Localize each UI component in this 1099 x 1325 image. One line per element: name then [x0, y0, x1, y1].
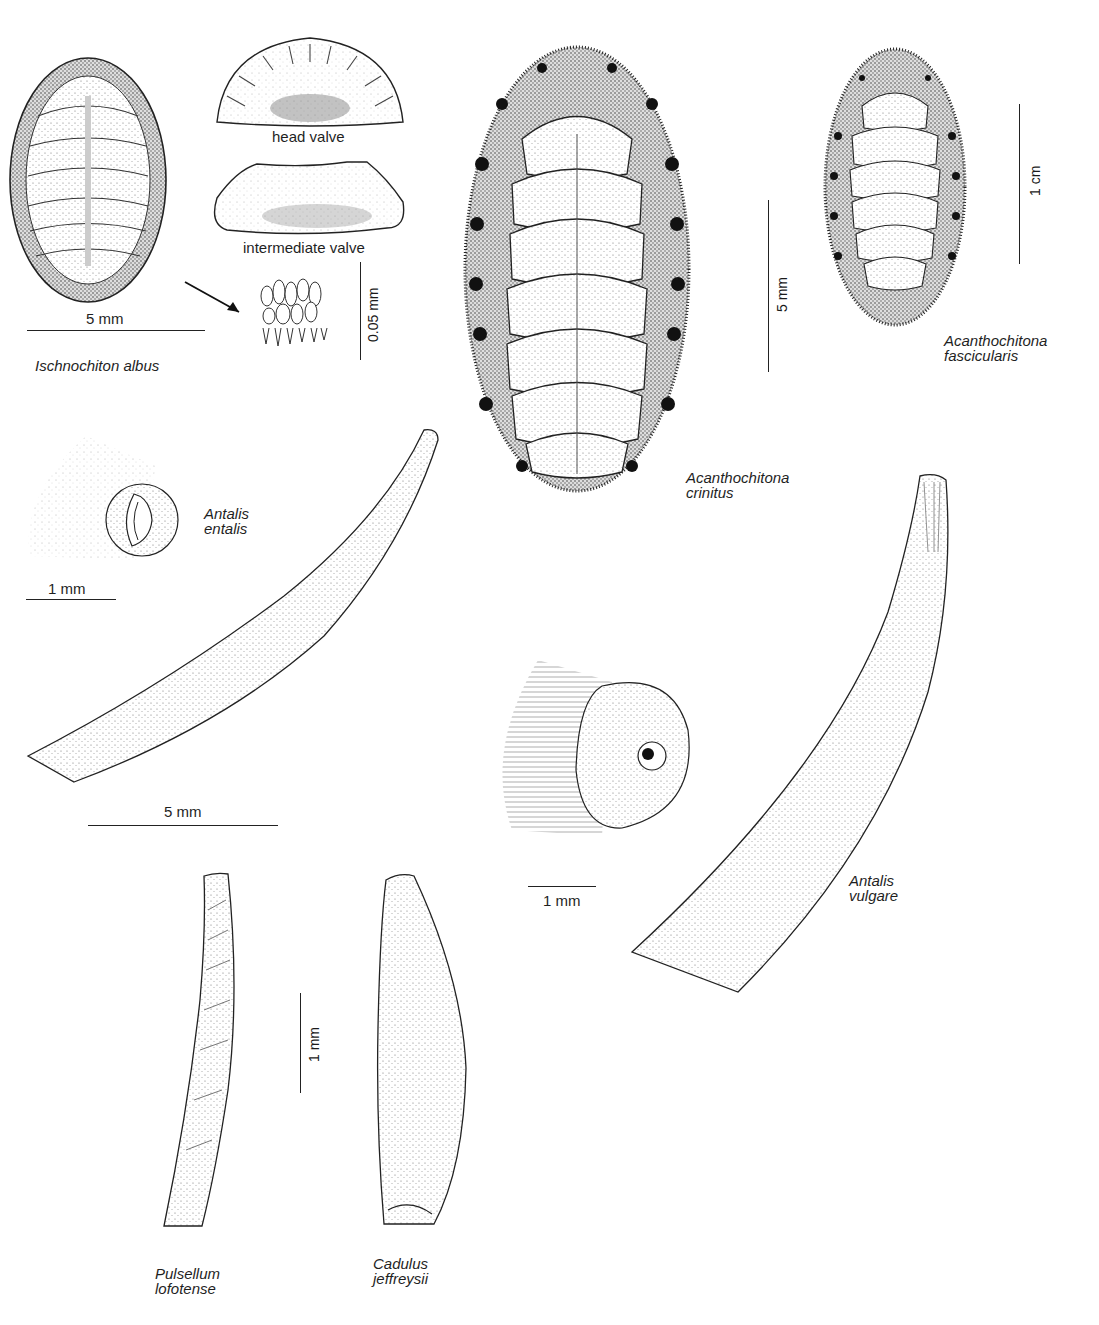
entalis-shell-scale-label: 5 mm: [164, 804, 202, 820]
vulgare-species-line2: vulgare: [849, 888, 898, 904]
acanthochitona-crinitus-illustration: [462, 44, 692, 494]
pulsellum-scale-bar: [300, 993, 301, 1093]
pulsellum-species-line2: lofotense: [155, 1281, 216, 1297]
crinitus-scale-label: 5 mm: [774, 277, 790, 312]
girdle-scale-label: 0.05 mm: [365, 288, 381, 342]
head-valve-label: head valve: [272, 129, 345, 145]
intermediate-valve-illustration: [207, 158, 409, 234]
pulsellum-scale-label: 1 mm: [306, 1027, 322, 1062]
ischnochiton-body-illustration: [8, 56, 168, 304]
girdle-scale-bar: [360, 262, 361, 360]
ischnochiton-scale-label: 5 mm: [86, 311, 124, 327]
fascicularis-species-line2: fascicularis: [944, 348, 1018, 364]
fascicularis-scale-label: 1 cm: [1027, 166, 1043, 196]
vulgare-detail-scale-bar: [528, 886, 596, 887]
intermediate-valve-label: intermediate valve: [243, 240, 365, 256]
pulsellum-shell-illustration: [150, 870, 246, 1230]
antalis-entalis-shell-illustration: [24, 426, 438, 786]
ischnochiton-scale-bar: [27, 330, 205, 331]
cadulus-species-line2: jeffreysii: [373, 1271, 428, 1287]
pointer-arrow-icon: [183, 280, 245, 316]
girdle-scales-illustration: [255, 276, 335, 354]
fascicularis-scale-bar: [1019, 104, 1020, 264]
vulgare-detail-scale-label: 1 mm: [543, 893, 581, 909]
antalis-vulgare-shell-illustration: [628, 472, 954, 992]
acanthochitona-fascicularis-illustration: [822, 46, 968, 328]
cadulus-shell-illustration: [370, 868, 470, 1228]
ischnochiton-species-label: Ischnochiton albus: [35, 358, 159, 374]
head-valve-illustration: [215, 36, 405, 128]
crinitus-scale-bar: [768, 200, 769, 372]
entalis-shell-scale-bar: [88, 825, 278, 826]
